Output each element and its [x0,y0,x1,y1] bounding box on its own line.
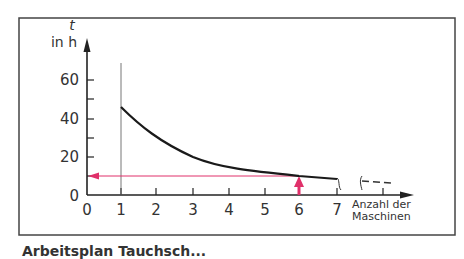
x-tick-label: 3 [188,201,198,219]
x-tick-label: 1 [116,201,126,219]
caption: Arbeitsplan Tauchsch... [22,243,206,259]
x-ticks [121,188,383,195]
y-tick-label: 0 [69,187,79,205]
y-axis-unit: in h [51,34,77,50]
y-tick-label: 20 [60,148,79,166]
x-tick-label: 0 [82,201,92,219]
x-tick-label: 2 [151,201,161,219]
y-ticks [87,80,94,176]
y-tick-label: 40 [60,110,79,128]
x-tick-label: 5 [260,201,270,219]
axis-break-mark [360,176,362,190]
curve-series [121,107,337,179]
x-tick-label: 4 [224,201,234,219]
left-arrow-icon [88,173,99,180]
x-axis-title-line2: Maschinen [352,210,411,223]
up-arrow-icon [294,176,304,187]
x-tick-label: 6 [294,201,304,219]
y-axis-symbol: t [69,17,75,33]
continuation-dashed-line [362,181,392,183]
x-tick-label: 7 [332,201,342,219]
y-axis-arrow-icon [84,38,91,52]
y-tick-label: 60 [60,71,79,89]
